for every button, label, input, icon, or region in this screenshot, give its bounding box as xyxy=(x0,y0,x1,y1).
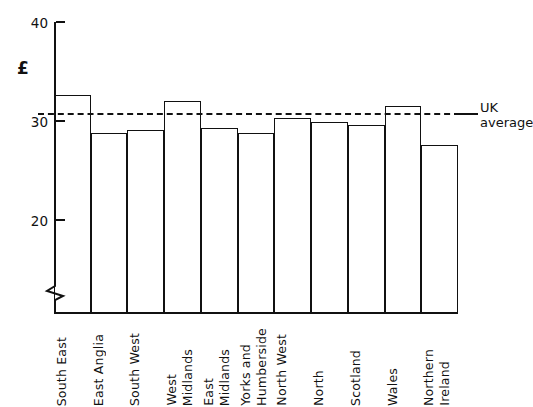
x-axis-category-labels: South EastEast AngliaSouth WestWestMidla… xyxy=(54,314,458,407)
bar[interactable] xyxy=(348,125,385,313)
x-axis-label-line: Yorks and xyxy=(238,344,253,406)
y-tick-label-text: 40 xyxy=(31,15,48,31)
x-axis-label-line: Wales xyxy=(385,368,400,406)
bar[interactable] xyxy=(238,133,275,313)
x-axis-label-9: Wales xyxy=(385,314,422,406)
x-axis-label-1: East Anglia xyxy=(91,314,128,406)
x-axis-label-8: Scotland xyxy=(348,314,385,406)
x-axis-label-0: South East xyxy=(54,314,91,406)
x-axis-label-6: North West xyxy=(274,314,311,406)
x-axis-label-5: Yorks andHumberside xyxy=(238,314,275,406)
x-axis-label-line: Midlands xyxy=(217,349,232,406)
bar[interactable] xyxy=(164,101,201,313)
x-axis-label-2: South West xyxy=(127,314,164,406)
bar[interactable] xyxy=(421,145,458,313)
bar[interactable] xyxy=(127,130,164,313)
uk-average-leader-line xyxy=(458,113,478,115)
x-axis-label-line: Scotland xyxy=(348,350,363,406)
x-axis-label-7: North xyxy=(311,314,348,406)
x-axis-label-line: South East xyxy=(54,337,69,406)
y-axis-label: £ xyxy=(17,58,29,78)
bars-group xyxy=(54,22,458,313)
bar[interactable] xyxy=(274,118,311,313)
y-tick-label-20: 20 xyxy=(6,211,48,230)
x-axis-label-line: Ireland xyxy=(437,361,452,406)
bar[interactable] xyxy=(385,106,422,313)
x-axis-label-line: Northern xyxy=(421,349,436,406)
x-axis-label-4: EastMidlands xyxy=(201,314,238,406)
bar[interactable] xyxy=(91,133,128,313)
x-axis-label-line: North West xyxy=(274,334,289,406)
uk-average-label-line-1: average xyxy=(480,115,533,130)
uk-average-dashed-line xyxy=(38,113,460,115)
x-axis-label-line: East xyxy=(201,378,216,406)
bar[interactable] xyxy=(54,95,91,313)
uk-average-label-line-0: UK xyxy=(480,100,533,115)
x-axis-label-line: East Anglia xyxy=(91,334,106,406)
bar[interactable] xyxy=(201,128,238,313)
y-tick-label-text: 20 xyxy=(31,213,48,229)
x-axis-label-line: South West xyxy=(127,333,142,406)
y-tick-label-40: 40 xyxy=(6,13,48,32)
x-axis-label-line: Humberside xyxy=(254,328,269,406)
uk-average-label: UKaverage xyxy=(480,100,533,130)
x-axis-label-line: North xyxy=(311,370,326,406)
x-axis-label-line: Midlands xyxy=(180,349,195,406)
x-axis-label-line: West xyxy=(164,374,179,406)
x-axis-label-10: NorthernIreland xyxy=(421,314,458,406)
x-axis-label-3: WestMidlands xyxy=(164,314,201,406)
bar[interactable] xyxy=(311,122,348,313)
y-tick-label-text: 30 xyxy=(31,114,48,130)
